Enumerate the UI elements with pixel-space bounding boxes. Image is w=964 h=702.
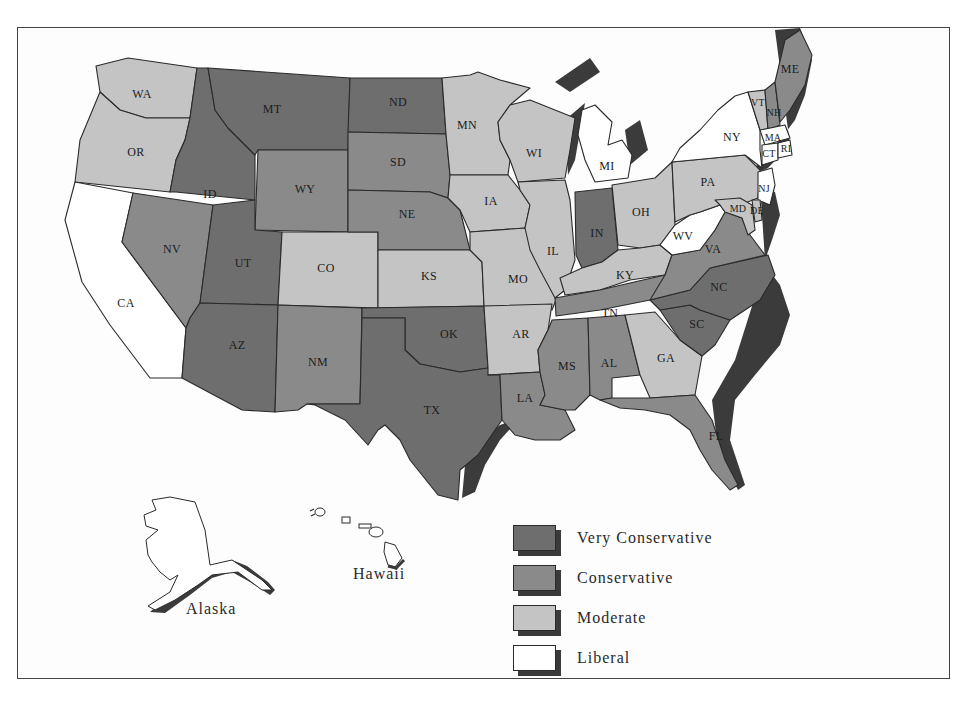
label-ca: CA [117, 296, 134, 310]
label-ut: UT [235, 256, 252, 270]
label-mt: MT [263, 102, 282, 116]
label-wi: WI [526, 146, 542, 160]
label-tx: TX [424, 403, 441, 417]
alaska-inset[interactable] [144, 497, 275, 613]
label-ga: GA [657, 351, 675, 365]
label-ri: RI [781, 143, 792, 154]
label-wy: WY [295, 182, 316, 196]
label-nd: ND [389, 95, 407, 109]
label-co: CO [317, 261, 334, 275]
label-de: DE [750, 205, 764, 216]
label-ct: CT [762, 148, 775, 159]
hawaii-inset[interactable] [310, 508, 404, 568]
state-az[interactable] [182, 303, 278, 412]
label-sc: SC [689, 317, 704, 331]
label-ar: AR [512, 327, 529, 341]
label-va: VA [705, 242, 721, 256]
label-ky: KY [616, 268, 634, 282]
state-ny[interactable] [672, 92, 762, 168]
legend-item-very-conservative: Very Conservative [513, 518, 713, 558]
label-ia: IA [484, 194, 497, 208]
legend-swatch [513, 525, 556, 551]
us-choropleth-map: WA OR CA ID NV MT WY UT AZ CO NM ND SD N… [0, 0, 964, 702]
label-ma: MA [765, 132, 782, 143]
label-or: OR [127, 145, 144, 159]
legend-item-moderate: Moderate [513, 598, 713, 638]
label-wv: WV [673, 229, 694, 243]
legend-label: Very Conservative [577, 529, 713, 547]
label-nh: NH [766, 107, 781, 118]
label-mn: MN [457, 118, 477, 132]
label-tn: TN [602, 306, 619, 320]
legend-label: Conservative [577, 569, 673, 587]
state-wi[interactable] [498, 100, 575, 182]
legend-swatch [513, 605, 556, 631]
legend-label: Liberal [577, 649, 630, 667]
label-ne: NE [399, 207, 416, 221]
label-me: ME [781, 62, 800, 76]
label-pa: PA [701, 175, 716, 189]
label-fl: FL [709, 429, 724, 443]
legend-swatch [513, 565, 556, 591]
label-nj: NJ [758, 183, 770, 194]
label-vt: VT [751, 97, 765, 108]
label-nm: NM [308, 355, 328, 369]
label-az: AZ [229, 338, 246, 352]
label-wa: WA [132, 87, 151, 101]
label-mo: MO [508, 272, 528, 286]
legend-item-liberal: Liberal [513, 638, 713, 678]
label-id: ID [203, 187, 216, 201]
label-sd: SD [390, 155, 406, 169]
label-md: MD [730, 203, 747, 214]
label-ms: MS [558, 359, 576, 373]
states [65, 30, 812, 500]
label-mi: MI [599, 159, 614, 173]
legend-label: Moderate [577, 609, 646, 627]
label-ks: KS [421, 269, 437, 283]
label-ok: OK [440, 327, 458, 341]
legend-swatch [513, 645, 556, 671]
label-oh: OH [632, 205, 650, 219]
label-nc: NC [710, 280, 727, 294]
legend-item-conservative: Conservative [513, 558, 713, 598]
label-in: IN [590, 226, 603, 240]
label-nv: NV [163, 242, 181, 256]
alaska-label: Alaska [186, 600, 236, 618]
label-al: AL [601, 356, 618, 370]
label-il: IL [547, 244, 559, 258]
legend: Very Conservative Conservative Moderate … [513, 518, 713, 678]
hawaii-label: Hawaii [353, 565, 405, 583]
label-la: LA [517, 391, 534, 405]
label-ny: NY [723, 130, 741, 144]
